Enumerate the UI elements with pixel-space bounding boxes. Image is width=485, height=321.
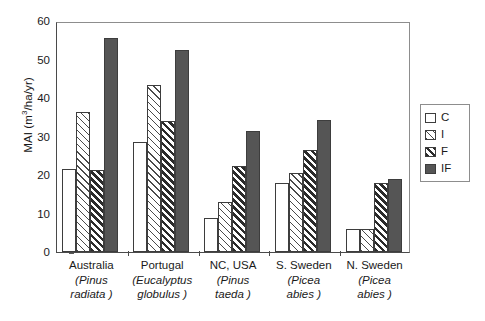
x-tick-mark [340,251,341,256]
y-tick-label: 60 [18,16,50,28]
x-category-label: Australia(Pinusradiata ) [56,258,127,302]
y-tick-label: 50 [18,55,50,67]
x-category-species-line1: (Eucalyptus [127,273,198,288]
bars-layer [57,23,409,252]
bar-c [204,218,218,252]
bar-i [76,112,90,252]
x-category-place: Portugal [127,258,198,273]
bar-f [374,183,388,252]
legend-label: I [441,129,444,141]
x-category-species-line1: (Picea [268,273,339,288]
bar-f [303,150,317,252]
legend-swatch-f [425,147,436,157]
x-category-species-line2: abies ) [268,287,339,302]
legend-item-if[interactable]: IF [425,160,464,177]
bar-group [57,23,128,252]
x-category-place: N. Sweden [339,258,410,273]
x-tick-mark [269,251,270,256]
x-category-label: Portugal(Eucalyptusglobulus ) [127,258,198,302]
bar-f [161,121,175,252]
y-tick-mark [69,253,74,254]
bar-if [388,179,402,252]
x-category-place: S. Sweden [268,258,339,273]
x-tick-mark [199,251,200,256]
legend: CIFIF [420,104,470,182]
bar-c [275,183,289,252]
bar-if [246,131,260,252]
plot-area [56,22,410,253]
x-axis-categories: Australia(Pinusradiata )Portugal(Eucalyp… [56,258,410,316]
bar-group [340,23,411,252]
bar-f [232,166,246,252]
bar-c [346,229,360,252]
y-tick-label: 10 [18,209,50,221]
y-tick-label: 30 [18,132,50,144]
y-tick-label: 0 [18,247,50,259]
legend-label: IF [441,163,451,175]
legend-item-c[interactable]: C [425,109,464,126]
x-category-label: S. Sweden(Piceaabies ) [268,258,339,302]
x-category-species-line2: globulus ) [127,287,198,302]
x-category-label: N. Sweden(Piceaabies ) [339,258,410,302]
x-category-species-line2: abies ) [339,287,410,302]
bar-f [90,170,104,252]
bar-group [128,23,199,252]
x-category-species-line1: (Pinus [56,273,127,288]
bar-if [104,38,118,252]
legend-label: F [441,146,448,158]
x-tick-mark [128,251,129,256]
legend-item-f[interactable]: F [425,143,464,160]
bar-c [133,142,147,252]
bar-i [147,85,161,252]
legend-swatch-i [425,130,436,140]
legend-item-i[interactable]: I [425,126,464,143]
bar-group [269,23,340,252]
bar-if [317,120,331,252]
x-category-species-line1: (Pinus [198,273,269,288]
x-category-place: NC, USA [198,258,269,273]
y-axis-ticks: 0102030405060 [18,22,50,253]
chart-figure: MAI (m3/ha/yr) 0102030405060 Australia(P… [0,0,485,321]
bar-if [175,50,189,253]
x-category-place: Australia [56,258,127,273]
bar-i [360,229,374,252]
legend-swatch-if [425,164,436,174]
y-tick-label: 20 [18,170,50,182]
y-tick-label: 40 [18,93,50,105]
x-category-species-line2: radiata ) [56,287,127,302]
legend-label: C [441,112,449,124]
x-category-label: NC, USA(Pinustaeda ) [198,258,269,302]
legend-swatch-c [425,113,436,123]
bar-group [199,23,270,252]
bar-c [62,169,76,252]
bar-i [289,173,303,252]
x-category-species-line2: taeda ) [198,287,269,302]
bar-i [218,202,232,252]
x-category-species-line1: (Picea [339,273,410,288]
